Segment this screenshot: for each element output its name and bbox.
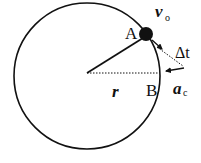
label-velocity-sub: o [165,12,170,23]
circle-path [14,3,160,149]
acceleration-arrow [166,68,184,71]
circular-motion-diagram: A v o Δt B a c r [0,0,201,163]
label-velocity: v [155,2,163,21]
label-radius: r [112,82,119,101]
label-delta-t: Δt [175,44,190,61]
ball [139,27,153,41]
label-point-b: B [146,81,157,100]
label-point-a: A [125,24,138,43]
radius-line-solid [87,38,143,73]
label-acceleration-sub: c [183,87,188,98]
label-acceleration: a [173,79,182,98]
